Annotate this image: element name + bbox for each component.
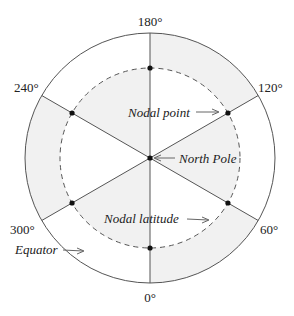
shaded-region-300-360-inner bbox=[72, 158, 150, 248]
shaded-region-240-300-outer bbox=[25, 96, 72, 221]
nodal-latitude-arrow-icon bbox=[187, 219, 208, 220]
polar-diagram: 180° 120° 60° 0° 300° 240° Nodal point N… bbox=[0, 0, 294, 316]
nodal-point-dot-300 bbox=[69, 200, 74, 205]
diagram-canvas: 180° 120° 60° 0° 300° 240° Nodal point N… bbox=[0, 0, 294, 316]
nodal-latitude-label: Nodal latitude bbox=[103, 211, 179, 226]
label-60: 60° bbox=[260, 222, 278, 237]
nodal-point-dot-240 bbox=[69, 110, 74, 115]
nodal-point-dot-60 bbox=[225, 200, 230, 205]
nodal-point-label: Nodal point bbox=[127, 105, 190, 120]
equator-label: Equator bbox=[14, 242, 59, 257]
north-pole-label: North Pole bbox=[178, 151, 237, 166]
label-240: 240° bbox=[14, 80, 39, 95]
label-300: 300° bbox=[10, 222, 35, 237]
label-0: 0° bbox=[144, 290, 156, 305]
nodal-point-dot-180 bbox=[147, 65, 152, 70]
nodal-point-dot-120 bbox=[225, 110, 230, 115]
label-180: 180° bbox=[138, 14, 163, 29]
nodal-point-dot-0 bbox=[147, 245, 152, 250]
label-120: 120° bbox=[258, 80, 283, 95]
north-pole-dot bbox=[147, 155, 152, 160]
